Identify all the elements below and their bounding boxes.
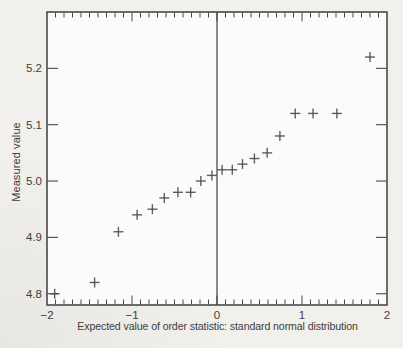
y-tick-label: 5.0 (26, 175, 42, 187)
y-tick-label: 4.9 (26, 231, 42, 243)
plot-canvas: −2−10124.84.95.05.15.2 (0, 0, 403, 348)
y-tick-label: 5.2 (26, 62, 42, 74)
scanned-qq-plot-figure: −2−10124.84.95.05.15.2 Measured value Ex… (0, 0, 403, 348)
y-tick-label: 5.1 (26, 119, 42, 131)
x-axis-title: Expected value of order statistic: stand… (32, 320, 403, 332)
y-tick-label: 4.8 (26, 288, 42, 300)
y-axis-title: Measured value (10, 122, 22, 202)
